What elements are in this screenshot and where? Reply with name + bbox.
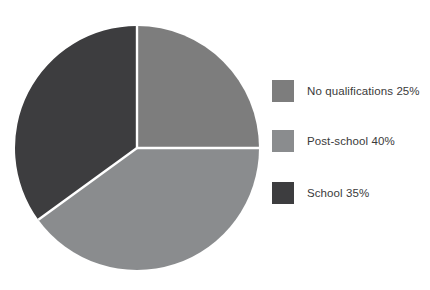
legend-label-no-qualifications: No qualifications 25% [307,80,420,102]
legend-swatch-post-school [272,130,294,152]
legend-label-school: School 35% [307,182,369,204]
legend-swatch-school [272,182,294,204]
legend-item-post-school[interactable]: Post-school 40% [272,130,395,152]
legend-label-post-school: Post-school 40% [307,130,395,152]
legend-item-no-qualifications[interactable]: No qualifications 25% [272,80,420,102]
legend-swatch-no-qualifications [272,80,294,102]
pie-chart-figure: No qualifications 25% Post-school 40% Sc… [0,0,430,290]
legend-item-school[interactable]: School 35% [272,182,369,204]
pie-slice-no-qualifications[interactable] [137,26,259,148]
